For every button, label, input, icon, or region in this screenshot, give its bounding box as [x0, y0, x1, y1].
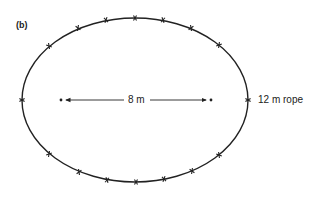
- panel-label: (b): [16, 20, 28, 30]
- tick-mark: [219, 42, 220, 48]
- rope-label: 12 m rope: [258, 94, 303, 106]
- tick-mark: [79, 169, 80, 175]
- tick-mark: [49, 151, 50, 157]
- focus-point-right: [210, 99, 213, 102]
- focus-point-left: [60, 99, 63, 102]
- tick-mark: [191, 25, 192, 31]
- distance-label: 8 m: [126, 94, 147, 106]
